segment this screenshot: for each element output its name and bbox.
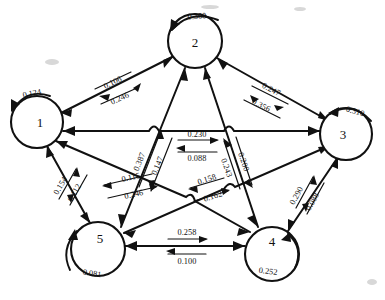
edge-label-3-to-1: 0.088 bbox=[187, 154, 206, 163]
edge-label-3-to-4: 0.088 bbox=[304, 191, 321, 212]
edge-label-2-to-5: 0.147 bbox=[150, 155, 166, 176]
node-2[interactable]: 2 0.300 bbox=[168, 11, 222, 68]
edge-1-5: 0.154 0.112 bbox=[46, 146, 90, 223]
node-1-label: 1 bbox=[37, 115, 44, 130]
edge-label-5-to-4: 0.258 bbox=[177, 228, 196, 237]
node-5-self-loop-label: 0.081 bbox=[82, 268, 102, 280]
edge-2-3: 0.247 0.356 bbox=[217, 58, 329, 121]
edge-label-1-to-4: 0.246 bbox=[124, 188, 145, 201]
edge-3-4: 0.290 0.088 bbox=[288, 157, 338, 231]
edge-label-4-to-1: 0.115 bbox=[121, 171, 141, 184]
edge-label-5-to-3: 0.162 bbox=[202, 189, 223, 203]
edge-label-1-to-3: 0.230 bbox=[187, 130, 206, 139]
edge-1-2: 0.106 0.246 bbox=[61, 56, 174, 117]
edge-label-2-to-1: 0.106 bbox=[102, 74, 123, 90]
node-2-self-loop-label: 0.300 bbox=[187, 11, 206, 21]
state-transition-diagram: 0.106 0.246 0.247 0.356 0.230 0.088 0.38… bbox=[0, 0, 385, 300]
edge-1-4: 0.115 0.246 bbox=[56, 141, 250, 236]
edge-1-3: 0.230 0.088 bbox=[63, 126, 320, 163]
edge-label-1-to-2: 0.246 bbox=[109, 90, 130, 106]
edge-label-4-to-2: 0.243 bbox=[219, 157, 234, 178]
edge-label-3-to-5: 0.158 bbox=[196, 172, 217, 186]
node-3[interactable]: 3 0.310 bbox=[320, 105, 372, 160]
node-5[interactable]: 5 0.081 bbox=[66, 222, 125, 279]
diagram-canvas: 0.106 0.246 0.247 0.356 0.230 0.088 0.38… bbox=[0, 0, 385, 300]
edge-4-5: 0.258 0.100 bbox=[125, 228, 245, 266]
node-2-label: 2 bbox=[192, 35, 199, 50]
node-4[interactable]: 4 0.252 bbox=[245, 227, 299, 281]
node-3-label: 3 bbox=[340, 127, 347, 142]
node-5-label: 5 bbox=[97, 231, 104, 246]
node-4-label: 4 bbox=[269, 234, 276, 249]
edge-label-4-to-5: 0.100 bbox=[177, 257, 196, 266]
node-1[interactable]: 1 0.124 bbox=[11, 87, 63, 148]
edge-2-4: 0.243 0.200 bbox=[203, 68, 258, 227]
edge-label-2-to-3: 0.356 bbox=[251, 97, 272, 114]
